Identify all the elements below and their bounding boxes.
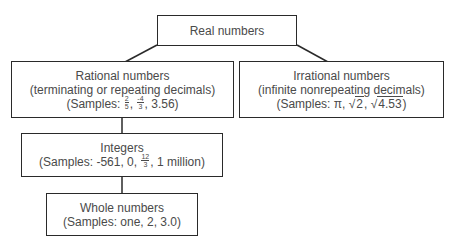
node-label: Rational numbers <box>75 69 169 83</box>
node-integers: Integers (Samples: -561, 0, 123, 1 milli… <box>21 133 223 177</box>
node-samples: (Samples: one, 2, 3.0) <box>63 215 181 229</box>
node-rational-numbers: Rational numbers (terminating or repeati… <box>11 61 234 118</box>
edge-real-rational <box>125 45 157 62</box>
fraction: 25 <box>125 95 129 110</box>
node-label: Whole numbers <box>80 201 164 215</box>
node-real-numbers: Real numbers <box>157 15 297 46</box>
edge-real-irrational <box>297 45 328 62</box>
node-irrational-numbers: Irrational numbers (infinite nonrepeatin… <box>239 61 444 118</box>
node-samples: (Samples: -561, 0, 123, 1 million) <box>39 155 205 169</box>
node-label: Integers <box>100 141 143 155</box>
square-root: √4.53 <box>371 97 403 111</box>
square-root: √2 <box>349 97 364 111</box>
node-description: (infinite nonrepeating decimals) <box>258 83 425 97</box>
node-description: (terminating or repeating decimals) <box>30 83 215 97</box>
node-whole-numbers: Whole numbers (Samples: one, 2, 3.0) <box>46 193 198 236</box>
node-samples: (Samples: 25, -43, 3.56) <box>66 97 178 111</box>
node-label: Real numbers <box>190 24 265 38</box>
node-samples: (Samples: π, √2, √4.53) <box>276 97 406 111</box>
fraction: 123 <box>141 153 149 168</box>
node-label: Irrational numbers <box>293 69 390 83</box>
fraction: -43 <box>137 95 143 110</box>
